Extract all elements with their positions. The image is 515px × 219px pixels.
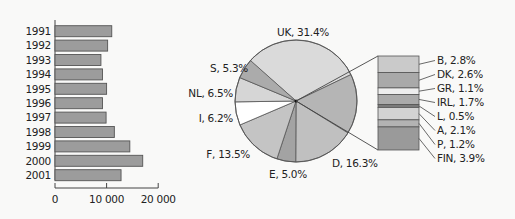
category-label: 2001 (25, 169, 51, 181)
bar (55, 141, 130, 152)
breakout-label-irl: IRL, 1.7% (437, 96, 484, 108)
pie-chart: UK, 31.4%D, 16.3%E, 5.0%F, 13.5%I, 6.2%N… (188, 26, 378, 180)
x-tick-label: 10 000 (89, 193, 124, 205)
category-label: 1992 (25, 39, 51, 51)
breakout-label-gr: GR, 1.1% (437, 82, 484, 94)
leader-line (419, 89, 435, 92)
bar (55, 55, 101, 66)
breakout-segment-fin (378, 127, 419, 150)
breakout-segment-dk (378, 73, 419, 88)
bar (55, 83, 107, 94)
breakout-label-p: P, 1.2% (437, 138, 475, 150)
breakout-segment-a (378, 107, 419, 119)
breakout-label-dk: DK, 2.6% (437, 68, 483, 80)
pie-label-nl: NL, 6.5% (188, 87, 233, 99)
category-label: 1991 (25, 25, 51, 37)
category-label: 1995 (25, 83, 51, 95)
pie-label-s: S, 5.3% (210, 62, 248, 74)
x-tick-label: 0 (52, 193, 58, 205)
breakout-segment-l (378, 104, 419, 107)
bar (55, 170, 121, 181)
x-tick-label: 20 000 (141, 193, 176, 205)
bar (55, 127, 114, 138)
breakout-segment-p (378, 120, 419, 127)
category-label: 2000 (25, 155, 51, 167)
breakout-segment-irl (378, 94, 419, 104)
breakout-segment-gr (378, 88, 419, 95)
breakout-label-l: L, 0.5% (437, 110, 474, 122)
pie-label-d: D, 16.3% (332, 157, 378, 169)
category-label: 1999 (25, 140, 51, 152)
chart-canvas: 1991199219931994199519961997199819992000… (0, 0, 515, 219)
category-label: 1996 (25, 97, 51, 109)
pie-label-e: E, 5.0% (269, 168, 307, 180)
category-label: 1994 (25, 68, 51, 80)
bar (55, 155, 143, 166)
leader-line (419, 75, 435, 81)
horizontal-bar-chart: 1991199219931994199519961997199819992000… (25, 20, 175, 205)
breakout-segment-b (378, 56, 419, 73)
bar (55, 69, 102, 80)
breakout-label-fin: FIN, 3.9% (437, 152, 485, 164)
breakout-label-b: B, 2.8% (437, 54, 476, 66)
pie-label-uk: UK, 31.4% (277, 26, 329, 38)
leader-line (419, 61, 435, 65)
bar (55, 98, 102, 109)
bar (55, 26, 112, 37)
category-label: 1993 (25, 54, 51, 66)
breakout-label-a: A, 2.1% (437, 124, 476, 136)
pie-label-i: I, 6.2% (199, 112, 234, 124)
leader-line (419, 99, 435, 102)
chart-figure: 1991199219931994199519961997199819992000… (0, 0, 515, 219)
category-label: 1997 (25, 111, 51, 123)
bar (55, 112, 106, 123)
pie-label-f: F, 13.5% (206, 148, 250, 160)
bar (55, 40, 108, 51)
leader-line (419, 106, 435, 117)
leader-line (419, 114, 435, 131)
category-label: 1998 (25, 126, 51, 138)
